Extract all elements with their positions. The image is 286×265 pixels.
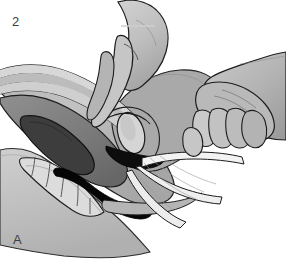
figure-step-number: 2	[12, 15, 19, 28]
anatomy-illustration-canvas	[0, 0, 286, 265]
medical-illustration-figure: 2 A	[0, 0, 286, 265]
figure-panel-letter: A	[13, 233, 22, 246]
